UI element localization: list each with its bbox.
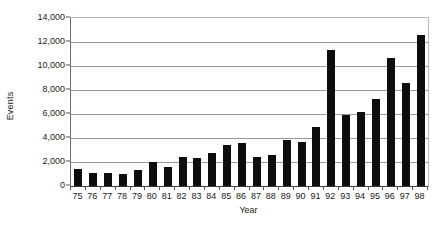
x-tick-mark — [323, 186, 324, 190]
x-tick-label: 96 — [385, 191, 395, 201]
bar — [238, 143, 246, 186]
y-tick-label: 0 — [60, 180, 65, 190]
x-tick-mark — [234, 186, 235, 190]
x-tick-mark — [278, 186, 279, 190]
bar — [104, 173, 112, 186]
x-tick-mark — [219, 186, 220, 190]
bar — [268, 155, 276, 186]
x-tick-mark — [85, 186, 86, 190]
x-tick-label: 97 — [400, 191, 410, 201]
x-tick-mark — [427, 186, 428, 190]
bar — [149, 162, 157, 186]
x-tick-mark — [382, 186, 383, 190]
x-tick-label: 81 — [162, 191, 172, 201]
x-tick-mark — [174, 186, 175, 190]
y-axis-title-text: Events — [5, 92, 15, 121]
x-tick-mark — [293, 186, 294, 190]
y-tick-label: 12,000 — [37, 36, 65, 46]
x-tick-label: 92 — [325, 191, 335, 201]
x-tick-mark — [100, 186, 101, 190]
x-tick-mark — [353, 186, 354, 190]
x-tick-label: 78 — [117, 191, 127, 201]
bar — [402, 83, 410, 186]
x-tick-mark — [115, 186, 116, 190]
x-tick-label: 76 — [87, 191, 97, 201]
x-tick-mark — [70, 186, 71, 190]
bar — [193, 158, 201, 186]
bar-series — [71, 18, 428, 186]
bar — [164, 167, 172, 186]
bar — [298, 142, 306, 186]
x-tick-label: 84 — [206, 191, 216, 201]
x-tick-label: 75 — [72, 191, 82, 201]
bar — [283, 140, 291, 186]
x-tick-mark — [397, 186, 398, 190]
x-tick-mark — [368, 186, 369, 190]
bar-chart: Events 02,0004,0006,0008,00010,00012,000… — [0, 0, 441, 230]
x-tick-label: 82 — [177, 191, 187, 201]
x-tick-label: 85 — [221, 191, 231, 201]
bar — [312, 127, 320, 186]
bar — [208, 153, 216, 186]
x-tick-mark — [338, 186, 339, 190]
bar — [74, 169, 82, 186]
x-tick-mark — [144, 186, 145, 190]
y-tick-label: 6,000 — [42, 108, 65, 118]
x-tick-mark — [130, 186, 131, 190]
x-tick-label: 83 — [191, 191, 201, 201]
y-tick-label: 14,000 — [37, 12, 65, 22]
x-tick-label: 88 — [266, 191, 276, 201]
x-tick-label: 93 — [340, 191, 350, 201]
y-tick-label: 4,000 — [42, 132, 65, 142]
x-tick-mark — [189, 186, 190, 190]
y-axis-tick-labels: 02,0004,0006,0008,00010,00012,00014,000 — [16, 0, 70, 230]
x-tick-label: 90 — [296, 191, 306, 201]
x-tick-label: 79 — [132, 191, 142, 201]
x-tick-label: 87 — [251, 191, 261, 201]
x-tick-mark — [263, 186, 264, 190]
plot-area — [70, 17, 429, 187]
x-axis-title: Year — [70, 205, 427, 215]
bar — [119, 174, 127, 186]
x-tick-label: 91 — [310, 191, 320, 201]
x-tick-label: 94 — [355, 191, 365, 201]
x-tick-label: 89 — [281, 191, 291, 201]
y-tick-label: 8,000 — [42, 84, 65, 94]
bar — [223, 145, 231, 186]
bar — [372, 99, 380, 186]
bar — [387, 58, 395, 186]
x-tick-label: 80 — [147, 191, 157, 201]
x-tick-mark — [204, 186, 205, 190]
bar — [342, 115, 350, 186]
bar — [179, 157, 187, 186]
y-tick-label: 10,000 — [37, 60, 65, 70]
bar — [89, 173, 97, 186]
x-tick-label: 95 — [370, 191, 380, 201]
x-tick-label: 98 — [415, 191, 425, 201]
bar — [327, 50, 335, 186]
x-tick-label: 77 — [102, 191, 112, 201]
x-tick-mark — [249, 186, 250, 190]
y-tick-label: 2,000 — [42, 156, 65, 166]
bar — [417, 35, 425, 186]
bar — [253, 157, 261, 186]
bar — [134, 170, 142, 186]
bar — [357, 112, 365, 186]
x-tick-mark — [159, 186, 160, 190]
x-tick-label: 86 — [236, 191, 246, 201]
x-tick-mark — [412, 186, 413, 190]
x-tick-mark — [308, 186, 309, 190]
